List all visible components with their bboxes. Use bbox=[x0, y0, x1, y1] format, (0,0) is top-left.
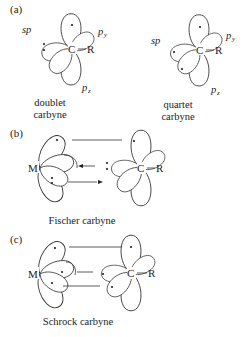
substituent-r: R bbox=[215, 44, 223, 56]
panel-c: (c) M C R Schrock bbox=[10, 233, 158, 327]
electron-dot bbox=[43, 43, 45, 45]
carbon-atom: C bbox=[196, 44, 203, 56]
sp-label: sp bbox=[22, 24, 31, 35]
pz-label: p bbox=[210, 84, 216, 95]
doublet-caption: doublet bbox=[34, 97, 66, 108]
carbon-atom: C bbox=[127, 267, 134, 279]
panel-b-label: (b) bbox=[10, 127, 23, 140]
electron-dot bbox=[71, 24, 73, 26]
substituent-r: R bbox=[156, 162, 164, 174]
panel-a-label: (a) bbox=[10, 3, 23, 16]
quartet-caption-2: carbyne bbox=[161, 111, 195, 122]
metal-atom: M bbox=[28, 268, 38, 280]
py-label: p bbox=[225, 30, 231, 41]
carbon-atom: C bbox=[137, 162, 144, 174]
py-label: p bbox=[97, 26, 103, 37]
sp-label: sp bbox=[151, 35, 160, 46]
electron-dot bbox=[43, 49, 45, 51]
pz-label: p bbox=[81, 82, 87, 93]
panel-c-label: (c) bbox=[10, 233, 23, 246]
fischer-caption: Fischer carbyne bbox=[49, 215, 116, 226]
doublet-carbyne-diagram: C R sp p y p z doublet carbyne bbox=[22, 14, 108, 120]
svg-text:y: y bbox=[231, 35, 236, 43]
panel-b: (b) M C R bbox=[10, 127, 168, 226]
panel-a: (a) C R sp p y p z doublet carbyne bbox=[10, 3, 236, 122]
metal-atom: M bbox=[28, 162, 38, 174]
schrock-caption: Schrock carbyne bbox=[43, 316, 114, 327]
quartet-carbyne-diagram: C R sp p y p z quartet carbyne bbox=[151, 15, 236, 122]
substituent-r: R bbox=[148, 267, 156, 279]
substituent-r: R bbox=[87, 43, 95, 55]
electron-dot bbox=[199, 26, 201, 28]
carbyne-orbital-figure: (a) C R sp p y p z doublet carbyne bbox=[0, 0, 246, 337]
doublet-caption-2: carbyne bbox=[33, 109, 67, 120]
svg-text:z: z bbox=[87, 87, 91, 95]
electron-dot bbox=[181, 68, 183, 70]
electron-dot bbox=[173, 51, 175, 53]
quartet-caption: quartet bbox=[163, 99, 192, 110]
svg-text:y: y bbox=[103, 31, 108, 39]
carbon-atom: C bbox=[68, 43, 75, 55]
svg-text:z: z bbox=[216, 89, 220, 97]
